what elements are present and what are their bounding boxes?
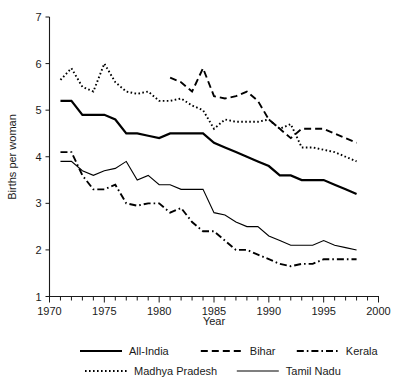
legend-label-tamil-nadu: Tamil Nadu bbox=[286, 365, 341, 377]
x-axis-title: Year bbox=[203, 315, 226, 327]
x-tick-label: 1980 bbox=[147, 305, 171, 317]
y-tick-label: 5 bbox=[35, 104, 41, 116]
y-tick-label: 2 bbox=[35, 244, 41, 256]
legend-label-madhya-pradesh: Madhya Pradesh bbox=[134, 365, 217, 377]
x-tick-label: 2000 bbox=[366, 305, 390, 317]
x-tick-label: 1995 bbox=[311, 305, 335, 317]
y-tick-label: 4 bbox=[35, 151, 41, 163]
x-tick-label: 1970 bbox=[37, 305, 61, 317]
y-axis-title: Births per woman bbox=[6, 114, 18, 200]
y-tick-label: 7 bbox=[35, 11, 41, 23]
y-tick-label: 3 bbox=[35, 197, 41, 209]
legend-label-bihar: Bihar bbox=[250, 345, 276, 357]
births-per-woman-line-chart: 1234567 1970197519801985199019952000 Yea… bbox=[0, 0, 401, 389]
y-tick-label: 1 bbox=[35, 291, 41, 303]
legend-label-all-india: All-India bbox=[129, 345, 170, 357]
x-tick-label: 1975 bbox=[92, 305, 116, 317]
chart-background bbox=[0, 0, 401, 389]
y-tick-label: 6 bbox=[35, 58, 41, 70]
legend-label-kerala: Kerala bbox=[346, 345, 379, 357]
x-tick-label: 1990 bbox=[257, 305, 281, 317]
